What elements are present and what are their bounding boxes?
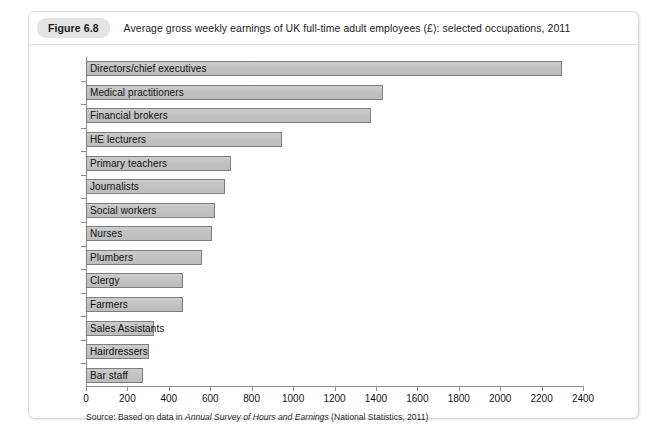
x-axis-tick xyxy=(583,386,584,391)
bar-category-label: Sales Assistants xyxy=(90,321,164,336)
y-axis-tick xyxy=(81,363,86,364)
source-title: Annual Survey of Hours and Earnings xyxy=(185,412,329,422)
figure-header: Figure 6.8 Average gross weekly earnings… xyxy=(29,12,638,45)
bar-category-label: Directors/chief executives xyxy=(90,61,207,76)
y-axis-tick xyxy=(81,151,86,152)
x-axis-tick-label: 2000 xyxy=(489,393,511,404)
x-axis-tick xyxy=(86,386,87,391)
source-suffix: (National Statistics, 2011) xyxy=(329,412,429,422)
y-axis-tick xyxy=(81,81,86,82)
bar-category-label: Clergy xyxy=(90,273,120,288)
x-axis-tick-label: 0 xyxy=(83,393,89,404)
figure-number-badge: Figure 6.8 xyxy=(37,18,110,38)
bar-category-label: Social workers xyxy=(90,203,156,218)
y-axis-tick xyxy=(81,104,86,105)
chart-plot-area: Directors/chief executivesMedical practi… xyxy=(29,45,640,418)
y-axis-tick xyxy=(81,246,86,247)
y-axis-tick xyxy=(81,316,86,317)
bar-category-label: Financial brokers xyxy=(90,108,168,123)
bar-category-label: Journalists xyxy=(90,179,139,194)
y-axis-tick xyxy=(81,175,86,176)
bar-category-label: HE lecturers xyxy=(90,132,146,147)
x-axis-tick-label: 2200 xyxy=(530,393,552,404)
x-axis-tick xyxy=(252,386,253,391)
bar-category-label: Farmers xyxy=(90,297,128,312)
x-axis-tick xyxy=(459,386,460,391)
x-axis-tick-label: 200 xyxy=(119,393,136,404)
bar-category-label: Primary teachers xyxy=(90,156,167,171)
bar-category-label: Nurses xyxy=(90,226,122,241)
source-prefix: Source: Based on data in xyxy=(86,412,185,422)
y-axis-tick xyxy=(81,293,86,294)
bar-category-label: Hairdressers xyxy=(90,344,148,359)
x-axis-tick xyxy=(542,386,543,391)
bar-category-label: Medical practitioners xyxy=(90,85,184,100)
bar-category-label: Plumbers xyxy=(90,250,133,265)
x-axis-tick-label: 1400 xyxy=(365,393,387,404)
x-axis-tick-label: 800 xyxy=(243,393,260,404)
y-axis-tick xyxy=(81,340,86,341)
x-axis-tick xyxy=(417,386,418,391)
x-axis-tick xyxy=(335,386,336,391)
x-axis-tick-label: 1800 xyxy=(448,393,470,404)
x-axis-tick-label: 1200 xyxy=(323,393,345,404)
x-axis-tick xyxy=(127,386,128,391)
y-axis-tick xyxy=(81,128,86,129)
figure-title: Average gross weekly earnings of UK full… xyxy=(124,22,571,34)
bar-series: Directors/chief executivesMedical practi… xyxy=(29,57,640,387)
y-axis-tick xyxy=(81,198,86,199)
x-axis-tick xyxy=(169,386,170,391)
x-axis-tick-label: 1000 xyxy=(282,393,304,404)
x-axis-tick-label: 400 xyxy=(160,393,177,404)
x-axis-tick xyxy=(500,386,501,391)
y-axis-tick xyxy=(81,269,86,270)
figure-card: Figure 6.8 Average gross weekly earnings… xyxy=(28,11,639,419)
x-axis-tick-label: 600 xyxy=(202,393,219,404)
x-axis-tick xyxy=(293,386,294,391)
y-axis-tick xyxy=(81,222,86,223)
x-axis-tick-label: 1600 xyxy=(406,393,428,404)
source-note: Source: Based on data in Annual Survey o… xyxy=(86,412,428,422)
x-axis-tick xyxy=(376,386,377,391)
x-axis-tick xyxy=(210,386,211,391)
bar-category-label: Bar staff xyxy=(90,368,128,383)
x-axis-tick-label: 2400 xyxy=(572,393,594,404)
